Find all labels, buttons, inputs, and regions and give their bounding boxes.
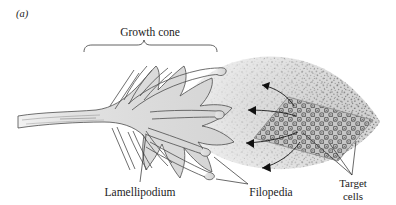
label-filopedia: Filopedia xyxy=(249,186,292,199)
figure-canvas: (a) Growth cone Lamellipodium Filopedia … xyxy=(0,0,396,205)
label-lamellipodium: Lamellipodium xyxy=(105,186,176,199)
label-target-cells-line2: cells xyxy=(343,190,363,202)
label-target-cells-line1: Target xyxy=(339,177,367,189)
growth-cone-figure: (a) Growth cone Lamellipodium Filopedia … xyxy=(0,0,396,205)
label-growth-cone: Growth cone xyxy=(120,26,180,38)
panel-label: (a) xyxy=(16,8,29,20)
